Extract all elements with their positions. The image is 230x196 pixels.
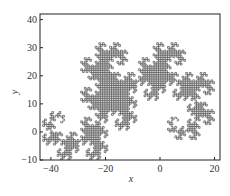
svg-text:−40: −40 xyxy=(43,163,59,174)
svg-text:20: 20 xyxy=(210,163,220,174)
x-axis-label: x xyxy=(128,173,134,184)
svg-text:30: 30 xyxy=(27,42,37,53)
chart: −40−20020 −10010203040 x y xyxy=(0,0,230,196)
svg-text:−10: −10 xyxy=(21,154,37,165)
svg-text:20: 20 xyxy=(27,70,37,81)
svg-text:0: 0 xyxy=(32,126,37,137)
y-axis-label: y xyxy=(9,89,20,95)
svg-text:0: 0 xyxy=(158,163,163,174)
svg-text:40: 40 xyxy=(27,14,37,25)
svg-text:10: 10 xyxy=(27,98,37,109)
svg-text:−20: −20 xyxy=(98,163,114,174)
